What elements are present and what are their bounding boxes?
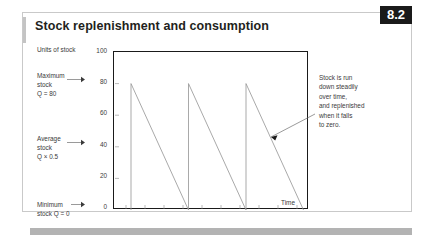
- footer-rule: [30, 228, 412, 235]
- figure-number-badge: 8.2: [380, 6, 412, 24]
- y-tick-100: 100: [85, 47, 107, 54]
- y-axis-caption: Units of stock: [37, 46, 75, 53]
- page-title: Stock replenishment and consumption: [35, 19, 269, 33]
- y-tick-60: 60: [85, 109, 107, 116]
- callout-maximum-stock: Maximum stock Q = 80: [37, 71, 65, 99]
- x-axis-caption: Time: [281, 199, 295, 206]
- title-accent-bar: [23, 17, 26, 43]
- y-tick-20: 20: [85, 172, 107, 179]
- y-tick-80: 80: [85, 78, 107, 85]
- figure-card: Stock replenishment and consumption 8.2 …: [22, 12, 412, 212]
- y-tick-40: 40: [85, 141, 107, 148]
- stock-level-series: [114, 52, 309, 210]
- chart-annotation: Stock is run down steadily over time, an…: [319, 73, 364, 129]
- callout-minimum-stock: Minimum stock Q = 0: [37, 200, 70, 218]
- callout-average-stock: Average stock Q × 0.5: [37, 134, 61, 162]
- plot-area: [113, 51, 308, 209]
- y-tick-0: 0: [85, 203, 107, 210]
